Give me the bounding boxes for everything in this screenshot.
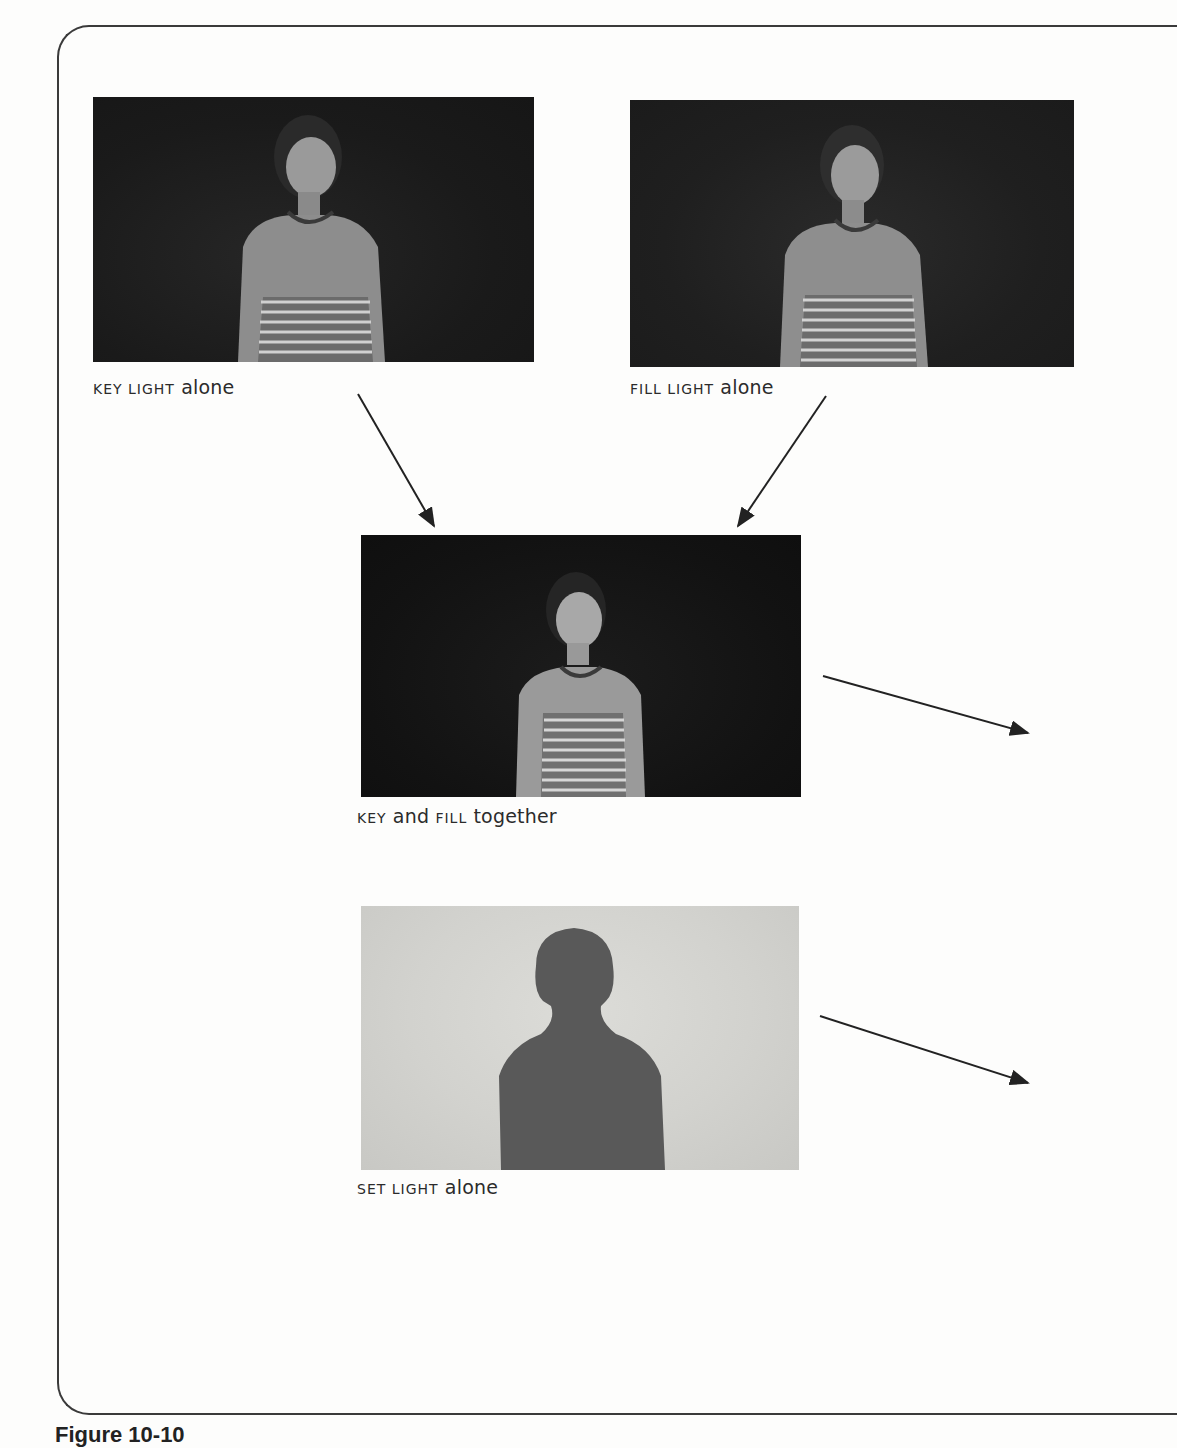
caption-text: alone: [439, 1176, 499, 1198]
caption-set-light-alone: SET LIGHT alone: [357, 1176, 498, 1198]
person-figure-icon: [361, 535, 801, 797]
caption-text: alone: [714, 376, 774, 398]
caption-caps: SET LIGHT: [357, 1181, 439, 1197]
person-figure-icon: [630, 100, 1074, 367]
photo-fill-light-alone: [630, 100, 1074, 367]
photo-set-light-alone: [361, 906, 799, 1170]
caption-text: alone: [175, 376, 235, 398]
caption-caps: KEY LIGHT: [93, 381, 175, 397]
caption-key-and-fill-together: KEY and FILL together: [357, 805, 557, 827]
figure-label: Figure 10-10: [55, 1422, 185, 1448]
caption-text-together: together: [467, 805, 557, 827]
caption-caps-key: KEY: [357, 810, 387, 826]
caption-key-light-alone: KEY LIGHT alone: [93, 376, 234, 398]
photo-key-light-alone: [93, 97, 534, 362]
caption-caps: FILL LIGHT: [630, 381, 714, 397]
caption-caps-fill: FILL: [435, 810, 467, 826]
person-figure-icon: [93, 97, 534, 362]
silhouette-figure-icon: [361, 906, 799, 1170]
caption-fill-light-alone: FILL LIGHT alone: [630, 376, 774, 398]
photo-key-and-fill-together: [361, 535, 801, 797]
caption-text-and: and: [387, 805, 436, 827]
